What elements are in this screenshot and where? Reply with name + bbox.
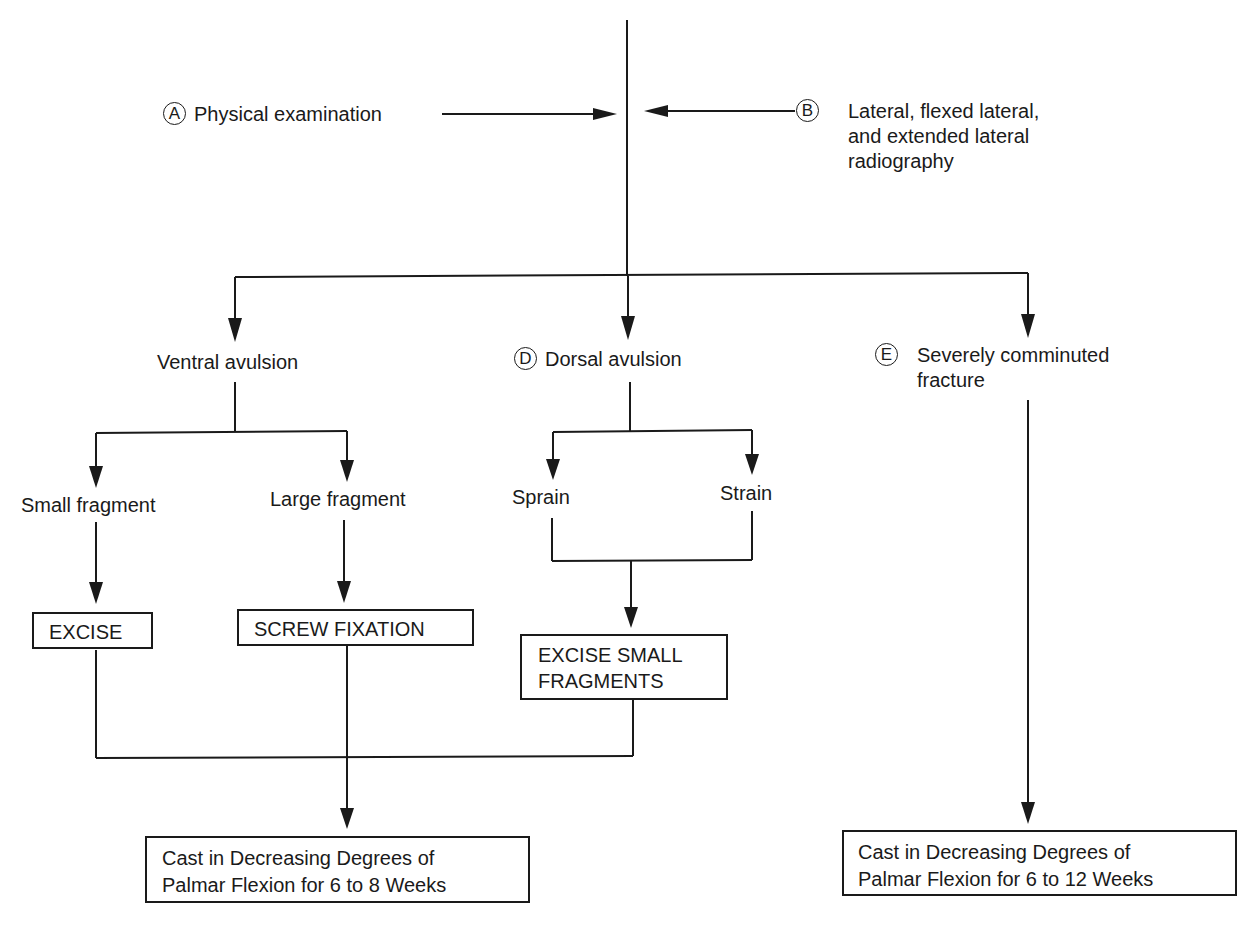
node-ventral-avulsion: Ventral avulsion: [157, 350, 298, 374]
radiography-line-2: and extended lateral: [848, 124, 1039, 149]
marker-a-icon: A: [163, 102, 186, 125]
arrowhead-comminuted: [1021, 314, 1035, 338]
radiography-line-3: radiography: [848, 149, 1039, 174]
arrowhead-sprain: [546, 459, 560, 480]
excise-label: EXCISE: [49, 619, 151, 645]
node-comminuted-fracture: E: [875, 343, 906, 368]
action-excise-small-fragments: EXCISE SMALL FRAGMENTS: [520, 634, 728, 700]
left-join: [96, 756, 633, 758]
dorsal-avulsion-label: Dorsal avulsion: [545, 348, 682, 370]
arrowhead-physical-exam: [593, 108, 617, 120]
arrowhead-excise: [89, 582, 103, 604]
outcome-cast-6-to-12-weeks: Cast in Decreasing Degrees of Palmar Fle…: [842, 830, 1237, 896]
excise-small-line-1: EXCISE SMALL: [538, 642, 726, 668]
arrowhead-radiography: [644, 105, 668, 117]
arrowhead-excise-small: [624, 607, 638, 628]
comminuted-line-1: Severely comminuted: [917, 343, 1109, 368]
node-strain: Strain: [720, 481, 772, 505]
node-dorsal-avulsion: DDorsal avulsion: [514, 347, 682, 372]
action-excise: EXCISE: [32, 612, 153, 649]
marker-d-icon: D: [514, 347, 537, 370]
outcome-right-line-2: Palmar Flexion for 6 to 12 Weeks: [858, 866, 1235, 893]
ventral-split: [96, 431, 347, 433]
outcome-cast-6-to-8-weeks: Cast in Decreasing Degrees of Palmar Fle…: [145, 836, 530, 903]
arrowhead-large: [340, 460, 354, 482]
arrowhead-left-outcome: [340, 808, 354, 829]
comminuted-label: Severely comminuted fracture: [917, 343, 1109, 393]
splitter-line: [235, 273, 1028, 277]
arrowhead-right-outcome: [1021, 802, 1035, 824]
comminuted-line-2: fracture: [917, 368, 1109, 393]
input-radiography: B: [796, 99, 827, 124]
outcome-left-line-1: Cast in Decreasing Degrees of: [162, 845, 528, 872]
arrowhead-small: [89, 466, 103, 488]
radiography-line-1: Lateral, flexed lateral,: [848, 99, 1039, 124]
outcome-right-line-1: Cast in Decreasing Degrees of: [858, 839, 1235, 866]
flowchart-connectors: [0, 0, 1255, 927]
physical-examination-label: Physical examination: [194, 103, 382, 125]
marker-b-icon: B: [796, 99, 819, 122]
screw-fixation-label: SCREW FIXATION: [254, 616, 472, 642]
arrowhead-strain: [745, 454, 759, 475]
node-large-fragment: Large fragment: [270, 487, 406, 511]
action-screw-fixation: SCREW FIXATION: [237, 609, 474, 646]
radiography-label: Lateral, flexed lateral, and extended la…: [848, 99, 1039, 174]
marker-e-icon: E: [875, 343, 898, 366]
dorsal-split: [553, 430, 752, 432]
node-small-fragment: Small fragment: [21, 493, 156, 517]
arrowhead-dorsal: [621, 316, 635, 340]
outcome-left-line-2: Palmar Flexion for 6 to 8 Weeks: [162, 872, 528, 899]
excise-small-line-2: FRAGMENTS: [538, 668, 726, 694]
dorsal-join: [552, 560, 752, 561]
node-sprain: Sprain: [512, 485, 570, 509]
arrowhead-ventral: [228, 318, 242, 342]
arrowhead-screw: [337, 581, 351, 603]
input-physical-examination: APhysical examination: [163, 102, 382, 127]
